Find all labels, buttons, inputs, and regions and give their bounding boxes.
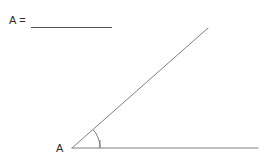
- angle-figure: [0, 0, 268, 159]
- diagonal-ray: [72, 28, 208, 148]
- vertex-label-a: A: [56, 142, 63, 155]
- angle-arc: [93, 130, 100, 148]
- worksheet-canvas: A = A: [0, 0, 268, 159]
